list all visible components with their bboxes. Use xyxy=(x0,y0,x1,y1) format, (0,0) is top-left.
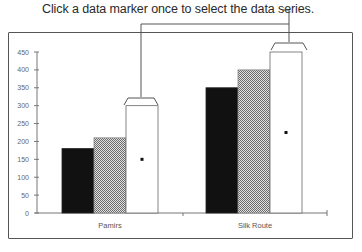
y-tick-label: 250 xyxy=(17,120,29,127)
y-tick-label: 400 xyxy=(17,66,29,73)
y-axis-ticks: 050100150200250300350400450 xyxy=(17,49,39,217)
y-tick-label: 100 xyxy=(17,174,29,181)
y-tick-label: 300 xyxy=(17,102,29,109)
selection-handle[interactable] xyxy=(285,131,288,134)
bar-series1-pamirs[interactable] xyxy=(62,149,94,213)
bar-series[interactable] xyxy=(62,52,302,213)
y-tick-label: 350 xyxy=(17,84,29,91)
category-label-pamirs: Pamirs xyxy=(98,221,122,230)
y-tick-label: 200 xyxy=(17,138,29,145)
bar-series1-silk-route[interactable] xyxy=(206,88,238,213)
bar-chart[interactable]: 050100150200250300350400450 Pamirs Silk … xyxy=(0,0,362,252)
y-tick-label: 450 xyxy=(17,49,29,56)
selection-handle[interactable] xyxy=(141,158,144,161)
y-tick-label: 150 xyxy=(17,156,29,163)
bar-series2-pamirs[interactable] xyxy=(94,138,126,213)
y-tick-label: 0 xyxy=(25,210,29,217)
y-tick-label: 50 xyxy=(21,192,29,199)
bar-series2-silk-route[interactable] xyxy=(238,70,270,213)
category-label-silk-route: Silk Route xyxy=(238,221,272,230)
